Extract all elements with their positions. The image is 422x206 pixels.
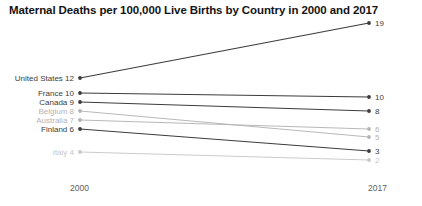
- series-dot-finland-start[interactable]: [78, 127, 82, 131]
- left-label-united-states: United States 12: [15, 74, 74, 83]
- series-dot-canada-end[interactable]: [367, 109, 371, 113]
- series-dot-italy-start[interactable]: [78, 150, 82, 154]
- right-label-australia: 6: [375, 125, 379, 134]
- left-label-italy: Italy 4: [53, 148, 74, 157]
- series-dot-canada-start[interactable]: [78, 100, 82, 104]
- series-line-canada[interactable]: [80, 102, 369, 111]
- series-dot-united-states-end[interactable]: [367, 21, 371, 25]
- left-label-france: France 10: [38, 89, 74, 98]
- series-dot-france-end[interactable]: [367, 95, 371, 99]
- right-label-finland: 3: [375, 147, 379, 156]
- slope-chart: Maternal Deaths per 100,000 Live Births …: [0, 0, 422, 206]
- series-dot-france-start[interactable]: [78, 91, 82, 95]
- series-line-united-states[interactable]: [80, 23, 369, 78]
- series-dot-australia-end[interactable]: [367, 127, 371, 131]
- series-dot-united-states-start[interactable]: [78, 76, 82, 80]
- left-label-australia: Australia 7: [36, 116, 74, 125]
- series-line-finland[interactable]: [80, 129, 369, 151]
- left-label-finland: Finland 6: [41, 125, 74, 134]
- series-line-france[interactable]: [80, 93, 369, 97]
- left-label-canada: Canada 9: [39, 98, 74, 107]
- series-line-belgium[interactable]: [80, 111, 369, 137]
- series-dot-italy-end[interactable]: [367, 158, 371, 162]
- series-dot-finland-end[interactable]: [367, 149, 371, 153]
- series-dot-australia-start[interactable]: [78, 118, 82, 122]
- right-label-belgium: 5: [375, 133, 379, 142]
- right-label-italy: 2: [375, 156, 379, 165]
- series-line-italy[interactable]: [80, 152, 369, 160]
- series-line-australia[interactable]: [80, 120, 369, 129]
- series-lines-group: [80, 23, 369, 160]
- left-label-belgium: Belgium 8: [38, 107, 74, 116]
- series-dot-belgium-start[interactable]: [78, 109, 82, 113]
- x-axis-tick-2000: 2000: [70, 183, 89, 193]
- right-label-united-states: 19: [375, 19, 384, 28]
- series-dots-group: [78, 21, 371, 162]
- right-label-canada: 8: [375, 107, 379, 116]
- right-label-france: 10: [375, 93, 384, 102]
- x-axis-tick-2017: 2017: [368, 183, 387, 193]
- series-dot-belgium-end[interactable]: [367, 135, 371, 139]
